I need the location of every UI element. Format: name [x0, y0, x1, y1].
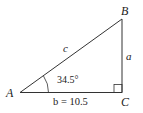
right-angle-marker	[114, 85, 122, 93]
vertex-label-b: B	[121, 4, 129, 18]
side-label-c: c	[63, 42, 68, 54]
vertex-label-c: C	[121, 95, 130, 109]
side-label-a: a	[126, 50, 132, 62]
angle-arc-A	[44, 76, 49, 93]
triangle-diagram: A B C c a b = 10.5 34.5°	[0, 0, 143, 113]
side-label-b: b = 10.5	[53, 96, 88, 107]
vertex-label-a: A	[5, 86, 14, 100]
angle-label-a: 34.5°	[57, 74, 79, 85]
